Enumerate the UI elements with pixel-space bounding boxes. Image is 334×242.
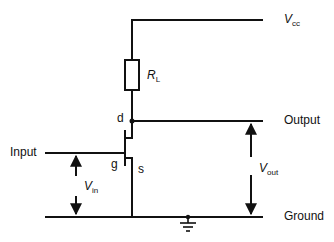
drain-terminal-label: d	[117, 112, 124, 124]
load-resistor	[125, 60, 139, 90]
load-resistor-label: RL	[147, 69, 160, 81]
input-label: Input	[10, 146, 37, 158]
source-lead	[126, 158, 132, 217]
gate-terminal-label: g	[111, 158, 118, 170]
drain-lead	[126, 121, 132, 138]
ground-label: Ground	[284, 210, 324, 222]
vcc-label: Vcc	[284, 13, 300, 25]
source-terminal-label: s	[138, 163, 144, 175]
vin-label: Vin	[84, 180, 98, 192]
drain-junction-dot	[130, 119, 135, 124]
vout-label: Vout	[259, 162, 278, 174]
output-label: Output	[284, 114, 320, 126]
